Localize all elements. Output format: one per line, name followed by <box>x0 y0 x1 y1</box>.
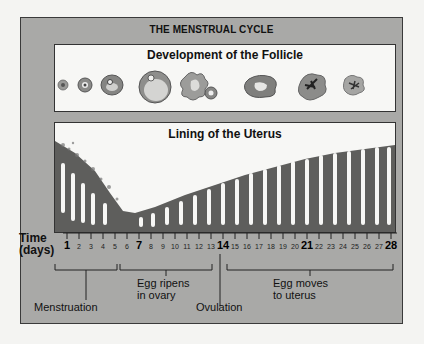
day-27: 27 <box>375 243 383 250</box>
day-8: 8 <box>149 243 153 250</box>
day-5: 5 <box>113 243 117 250</box>
day-14: 14 <box>217 239 229 251</box>
day-4: 4 <box>101 243 105 250</box>
phase-brackets <box>55 254 393 306</box>
day-6: 6 <box>125 243 129 250</box>
day-28: 28 <box>385 239 397 251</box>
day-22: 22 <box>315 243 323 250</box>
day-10: 10 <box>171 243 179 250</box>
phase-menstruation: Menstruation <box>34 301 98 313</box>
day-26: 26 <box>363 243 371 250</box>
day-3: 3 <box>89 243 93 250</box>
day-19: 19 <box>279 243 287 250</box>
day-18: 18 <box>267 243 275 250</box>
day-2: 2 <box>77 243 81 250</box>
day-16: 16 <box>243 243 251 250</box>
day-7: 7 <box>136 239 142 251</box>
day-25: 25 <box>351 243 359 250</box>
day-12: 12 <box>195 243 203 250</box>
day-13: 13 <box>207 243 215 250</box>
day-23: 23 <box>327 243 335 250</box>
day-20: 20 <box>291 243 299 250</box>
menstrual-cycle-diagram: THE MENSTRUAL CYCLE Development of the F… <box>20 17 403 324</box>
phase-egg-ripens: Egg ripens in ovary <box>137 277 190 301</box>
phase-egg-moves: Egg moves to uterus <box>273 277 328 301</box>
day-9: 9 <box>161 243 165 250</box>
uterus-panel-title: Lining of the Uterus <box>55 127 395 141</box>
day-17: 17 <box>255 243 263 250</box>
day-21: 21 <box>301 239 313 251</box>
time-axis <box>21 18 404 325</box>
day-15: 15 <box>231 243 239 250</box>
day-24: 24 <box>339 243 347 250</box>
time-axis-label: Time (days) <box>19 232 54 256</box>
day-1: 1 <box>64 239 70 251</box>
day-11: 11 <box>183 243 190 250</box>
phase-ovulation: Ovulation <box>196 301 242 313</box>
